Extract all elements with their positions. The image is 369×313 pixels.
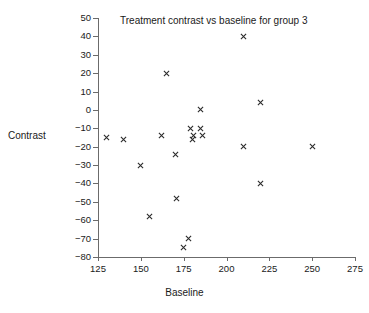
y-tick-label: 50 xyxy=(80,13,91,23)
y-tick-label: −10 xyxy=(75,124,91,134)
x-tick-mark xyxy=(312,257,313,261)
y-tick-label: 0 xyxy=(86,105,91,115)
x-tick-mark xyxy=(355,257,356,261)
y-tick-mark xyxy=(93,202,98,203)
plot-area: 50403020100−10−20−30−40−50−60−70−80 xyxy=(98,18,355,257)
y-tick-mark xyxy=(93,220,98,221)
y-axis-label: Contrast xyxy=(8,131,46,141)
data-point-marker xyxy=(103,134,110,141)
y-tick-label: 40 xyxy=(80,32,91,42)
data-point-marker xyxy=(257,99,264,106)
y-tick-label: 20 xyxy=(80,68,91,78)
data-point-marker xyxy=(158,132,165,139)
data-point-marker xyxy=(197,106,204,113)
data-point-marker xyxy=(257,180,264,187)
x-tick-mark xyxy=(269,257,270,261)
data-point-marker xyxy=(180,244,187,251)
x-tick-mark xyxy=(141,257,142,261)
data-point-marker xyxy=(197,125,204,132)
y-tick-mark xyxy=(93,55,98,56)
y-tick-mark xyxy=(93,110,98,111)
y-tick-label: 30 xyxy=(80,50,91,60)
x-tick-label: 250 xyxy=(304,264,320,274)
y-tick-label: −20 xyxy=(75,142,91,152)
y-tick-mark xyxy=(93,165,98,166)
y-tick-mark xyxy=(93,73,98,74)
data-point-marker xyxy=(163,70,170,77)
data-point-marker xyxy=(185,235,192,242)
y-tick-mark xyxy=(93,128,98,129)
x-axis-label: Baseline xyxy=(0,288,369,298)
data-point-marker xyxy=(187,125,194,132)
y-tick-mark xyxy=(93,239,98,240)
y-tick-mark xyxy=(93,92,98,93)
x-tick-label: 175 xyxy=(176,264,192,274)
y-tick-mark xyxy=(93,36,98,37)
data-point-marker xyxy=(120,136,127,143)
x-tick-label: 200 xyxy=(219,264,235,274)
data-point-marker xyxy=(240,143,247,150)
x-tick-label: 150 xyxy=(133,264,149,274)
x-tick-mark xyxy=(98,257,99,261)
y-tick-label: −40 xyxy=(75,179,91,189)
x-tick-label: 275 xyxy=(347,264,363,274)
x-tick-mark xyxy=(227,257,228,261)
data-point-marker xyxy=(172,151,179,158)
data-point-marker xyxy=(146,213,153,220)
data-point-marker xyxy=(240,33,247,40)
data-point-marker xyxy=(173,195,180,202)
scatter-plot-figure: Treatment contrast vs baseline for group… xyxy=(0,0,369,313)
y-tick-label: −30 xyxy=(75,160,91,170)
y-tick-label: −70 xyxy=(75,234,91,244)
y-tick-label: −80 xyxy=(75,252,91,262)
y-tick-label: −60 xyxy=(75,215,91,225)
x-tick-label: 125 xyxy=(90,264,106,274)
y-tick-mark xyxy=(93,18,98,19)
x-tick-label: 225 xyxy=(261,264,277,274)
data-point-marker xyxy=(199,132,206,139)
x-tick-mark xyxy=(184,257,185,261)
y-tick-label: −50 xyxy=(75,197,91,207)
y-tick-mark xyxy=(93,183,98,184)
data-point-marker xyxy=(190,132,197,139)
y-tick-mark xyxy=(93,147,98,148)
data-point-marker xyxy=(137,162,144,169)
y-tick-label: 10 xyxy=(80,87,91,97)
data-point-marker xyxy=(309,143,316,150)
